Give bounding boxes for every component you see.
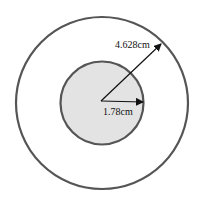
concentric-circles-diagram: 4.628cm 1.78cm [0,0,207,204]
inner-circle [61,62,144,145]
inner-radius-label: 1.78cm [103,106,133,117]
outer-radius-label: 4.628cm [115,39,150,50]
